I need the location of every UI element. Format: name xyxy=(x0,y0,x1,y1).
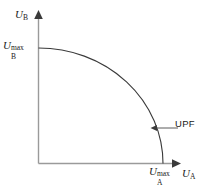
x-axis-max-superscript: max xyxy=(157,170,170,178)
x-axis-max-label: UAmax xyxy=(149,166,157,177)
y-axis-max-superscript: max xyxy=(11,44,24,52)
upf-curve xyxy=(39,48,164,164)
y-axis-label-subscript: B xyxy=(23,13,28,22)
x-axis-arrowhead-icon xyxy=(172,159,181,168)
x-axis-max-subscript: A xyxy=(157,179,162,187)
diagram-canvas xyxy=(0,0,206,190)
x-axis-label-subscript: A xyxy=(190,172,195,181)
x-axis-label-var: U xyxy=(182,167,190,179)
y-axis-max-label: UBmax xyxy=(3,40,11,51)
y-axis-max-var: U xyxy=(3,39,11,51)
upf-annotation-label: UPF xyxy=(175,119,195,129)
y-axis-max-subscript: B xyxy=(11,53,16,61)
y-axis-arrowhead-icon xyxy=(34,10,43,19)
y-axis-label-var: U xyxy=(15,8,23,20)
y-axis-label: UB xyxy=(15,9,28,22)
x-axis-max-var: U xyxy=(149,165,157,177)
figure-root: UB UBmax UAmax UA UPF xyxy=(0,0,206,190)
upf-pointer-arrowhead-icon xyxy=(151,125,158,131)
x-axis-label: UA xyxy=(182,168,195,181)
